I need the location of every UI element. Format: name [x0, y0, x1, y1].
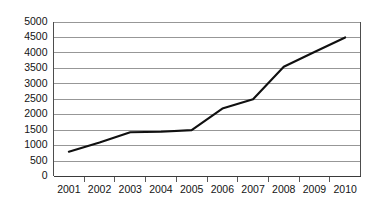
- y-axis-tick-label: 1000: [24, 138, 48, 150]
- y-axis-tick-label: 4000: [24, 46, 48, 58]
- chart-canvas: 0500100015002000250030003500400045005000…: [0, 0, 374, 209]
- y-axis-tick-label: 4500: [24, 30, 48, 42]
- y-axis-tick-label: 2500: [24, 92, 48, 104]
- y-axis-tick-label: 500: [30, 154, 48, 166]
- x-axis-tick-label: 2008: [272, 183, 296, 195]
- x-axis-tick-label: 2007: [241, 183, 265, 195]
- y-axis-tick-label: 3000: [24, 77, 48, 89]
- x-axis-tick-label: 2002: [88, 183, 112, 195]
- y-axis-tick-label: 5000: [24, 15, 48, 27]
- x-axis-tick-label: 2006: [211, 183, 235, 195]
- y-axis-tick-label: 2000: [24, 107, 48, 119]
- x-axis-tick-label: 2009: [303, 183, 327, 195]
- x-axis-tick-label: 2004: [149, 183, 173, 195]
- x-axis-tick-label: 2010: [333, 183, 357, 195]
- y-axis-tick-label: 1500: [24, 123, 48, 135]
- x-axis-tick-label: 2001: [57, 183, 81, 195]
- line-chart: 0500100015002000250030003500400045005000…: [0, 0, 374, 209]
- y-axis-tick-label: 0: [42, 169, 48, 181]
- x-axis-tick-label: 2005: [180, 183, 204, 195]
- chart-background: [0, 0, 374, 209]
- y-axis-tick-label: 3500: [24, 61, 48, 73]
- x-axis-tick-label: 2003: [119, 183, 143, 195]
